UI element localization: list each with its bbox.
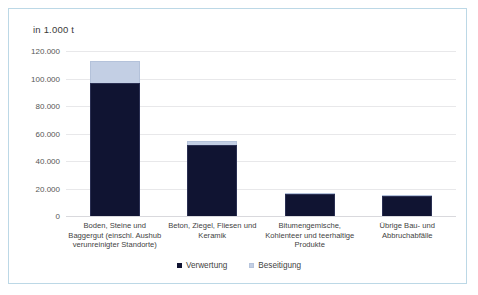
legend-item-beseitigung[interactable]: Beseitigung <box>249 261 301 270</box>
gridline-0 <box>66 216 456 217</box>
y-axis-tick-label: 100.000 <box>31 74 60 83</box>
x-axis-category-label: Übrige Bau- und Abbruchabfälle <box>359 221 457 240</box>
legend-label: Beseitigung <box>258 261 301 270</box>
legend-label: Verwertung <box>186 261 227 270</box>
legend-item-verwertung[interactable]: Verwertung <box>177 261 227 270</box>
y-axis-tick-label: 60.000 <box>36 129 60 138</box>
y-axis-tick-label: 80.000 <box>36 102 60 111</box>
x-axis-category-label: Beton, Ziegel, Fliesen und Keramik <box>164 221 262 240</box>
y-axis-tick-label: 0 <box>56 212 60 221</box>
chart-title: in 1.000 t <box>33 24 74 35</box>
x-axis-category-label: Boden, Steine und Baggergut (einschl. Au… <box>66 221 164 250</box>
bar-stack[interactable] <box>285 193 335 216</box>
chart-figure: in 1.000 t 020.00040.00060.00080.000100.… <box>0 0 478 295</box>
bar-segment-verwertung[interactable] <box>90 83 140 216</box>
bar-segment-verwertung[interactable] <box>187 145 237 216</box>
x-axis-category-label: Bitumengemische, Kohlenteer und teerhalt… <box>261 221 359 250</box>
bar-segment-verwertung[interactable] <box>285 194 335 216</box>
gridline-120000 <box>66 51 456 52</box>
bar-stack[interactable] <box>187 141 237 216</box>
legend-swatch-icon <box>249 263 254 268</box>
chart-legend: VerwertungBeseitigung <box>0 261 478 270</box>
y-axis-tick-label: 120.000 <box>31 47 60 56</box>
bar-stack[interactable] <box>90 61 140 216</box>
y-axis-tick-label: 20.000 <box>36 184 60 193</box>
y-axis-tick-label: 40.000 <box>36 157 60 166</box>
plot-area: 020.00040.00060.00080.000100.000120.000 <box>66 51 456 216</box>
bar-segment-beseitigung[interactable] <box>90 61 140 83</box>
bar-stack[interactable] <box>382 195 432 216</box>
legend-swatch-icon <box>177 263 182 268</box>
bar-segment-verwertung[interactable] <box>382 196 432 216</box>
